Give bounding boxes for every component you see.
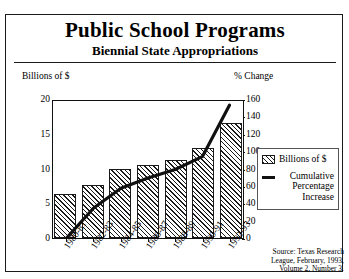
left-tick-0: 0 (30, 234, 50, 244)
x-tick-mark (148, 239, 149, 242)
title-divider (14, 62, 336, 63)
x-axis-labels: 1980-811982-831984-851986-871988-891990-… (52, 241, 244, 279)
legend-item-line: Cumulative Percentage Increase (262, 171, 334, 203)
x-tick-mark (93, 239, 94, 242)
x-tick-mark (66, 239, 67, 242)
chart-frame: Public School Programs Biennial State Ap… (5, 14, 343, 272)
bar-series (53, 101, 243, 238)
line-swatch-icon (262, 172, 275, 179)
right-tick-0: 0 (246, 234, 270, 244)
left-tick-15: 15 (30, 130, 50, 140)
chart-title: Public School Programs (6, 19, 344, 42)
x-tick-mark (203, 239, 204, 242)
left-tick-5: 5 (30, 199, 50, 209)
right-tick-160: 160 (246, 95, 270, 105)
legend-item-bars: Billions of $ (262, 154, 334, 165)
x-tick-mark (175, 239, 176, 242)
right-tick-mark (242, 239, 245, 240)
x-tick-mark (121, 239, 122, 242)
hatch-swatch-icon (262, 155, 275, 164)
legend-label-bars: Billions of $ (279, 154, 334, 165)
chart-legend: Billions of $ Cumulative Percentage Incr… (257, 148, 339, 210)
left-tick-20: 20 (30, 95, 50, 105)
bar-1992-93 (220, 123, 242, 238)
right-tick-140: 140 (246, 112, 270, 122)
left-axis-title: Billions of $ (22, 71, 70, 81)
left-axis-ticks: 20151050 (28, 100, 50, 239)
right-tick-120: 120 (246, 130, 270, 140)
right-axis-title: % Change (234, 71, 273, 81)
left-tick-10: 10 (30, 165, 50, 175)
chart-subtitle: Biennial State Appropriations (6, 43, 344, 58)
source-note: Source: Texas Research League, February,… (252, 248, 344, 274)
x-tick-mark (230, 239, 231, 242)
legend-label-line: Cumulative Percentage Increase (279, 171, 334, 203)
